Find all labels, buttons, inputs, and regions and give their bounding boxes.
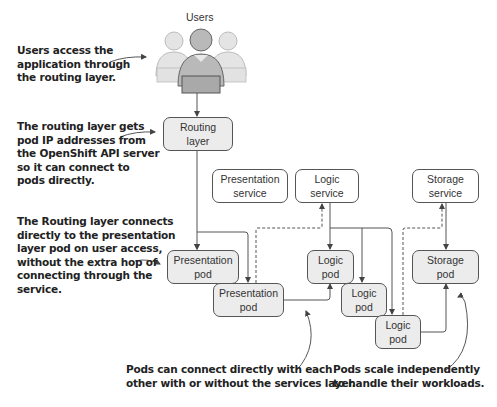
users-label: Users xyxy=(186,11,213,23)
logic-pod-3-node: Logic pod xyxy=(375,315,421,349)
annotation-pods-scale: Pods scale independently to handle their… xyxy=(333,363,484,390)
presentation-pod-1-node: Presentation pod xyxy=(167,250,239,284)
annotation-users-access: Users access the application through the… xyxy=(17,44,130,85)
users-icon xyxy=(152,28,252,94)
storage-pod-node: Storage pod xyxy=(412,250,479,284)
annotation-routing-connects: The Routing layer connects directly to t… xyxy=(17,215,175,296)
logic-service-node: Logic service xyxy=(295,169,359,203)
presentation-pod-2-node: Presentation pod xyxy=(213,283,284,317)
logic-pod-2-node: Logic pod xyxy=(341,283,387,317)
logic-pod-1-node: Logic pod xyxy=(307,250,354,284)
annotation-pods-connect: Pods can connect directly with each othe… xyxy=(126,363,356,390)
routing-layer-node: Routing layer xyxy=(163,117,233,151)
storage-service-node: Storage service xyxy=(412,169,479,203)
presentation-service-node: Presentation service xyxy=(212,169,288,203)
annotation-routing-ips: The routing layer gets pod IP addresses … xyxy=(17,120,159,188)
